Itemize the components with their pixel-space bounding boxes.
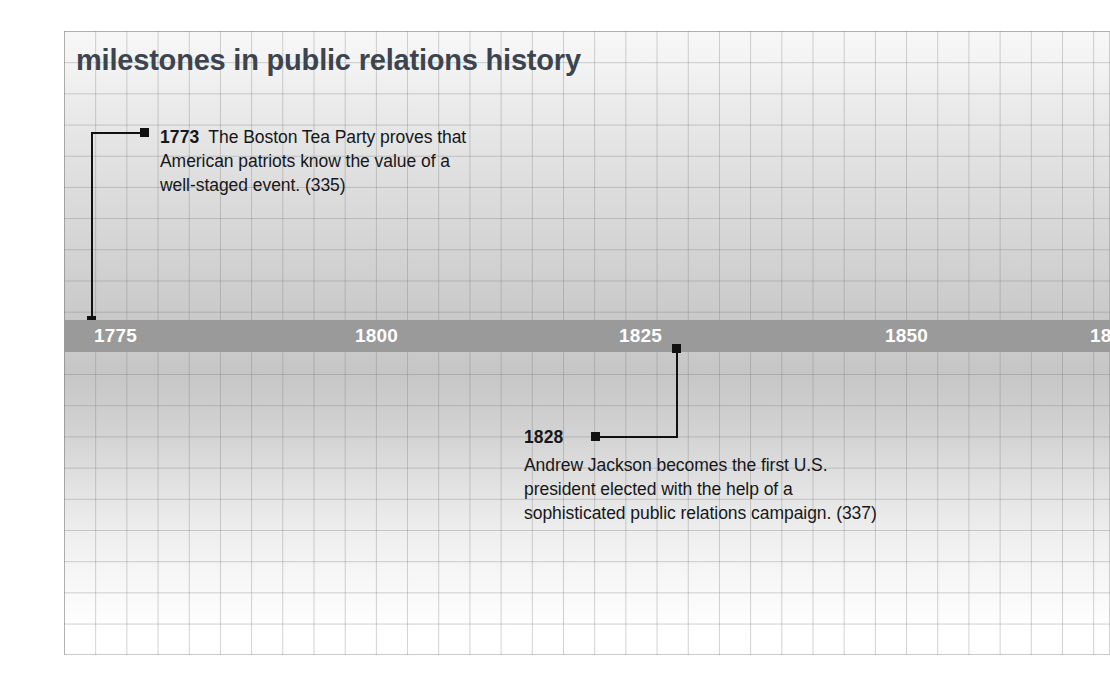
axis-tick-1775: 1775 <box>94 320 137 352</box>
leader-line-1828-vertical <box>676 348 678 437</box>
callout-1773-line-2: American patriots know the value of a <box>160 151 450 171</box>
axis-tick-1800: 1800 <box>355 320 398 352</box>
axis-tick-1825: 1825 <box>619 320 662 352</box>
leader-line-1773-horizontal <box>91 132 143 134</box>
callout-1828-line-2: president elected with the help of a <box>524 479 793 499</box>
callout-1828-line-1: Andrew Jackson becomes the first U.S. <box>524 455 828 475</box>
callout-1773-line-1: The Boston Tea Party proves that <box>208 127 466 147</box>
callout-1828: 1828 Andrew Jackson becomes the first U.… <box>524 425 994 525</box>
callout-1828-year: 1828 <box>524 425 994 449</box>
page-title: milestones in public relations history <box>76 44 581 77</box>
timeline-bar: 1775 1800 1825 1850 18 <box>64 320 1110 352</box>
callout-1828-line-3: sophisticated public relations campaign.… <box>524 503 877 523</box>
axis-tick-1875-clipped: 18 <box>1090 320 1110 352</box>
event-marker-1773 <box>140 128 149 137</box>
callout-1773: 1773The Boston Tea Party proves that Ame… <box>160 125 540 197</box>
leader-line-1773-vertical <box>91 132 93 322</box>
callout-1773-year: 1773 <box>160 127 199 147</box>
timeline-figure: milestones in public relations history 1… <box>0 0 1110 687</box>
callout-1773-line-3: well-staged event. (335) <box>160 175 346 195</box>
axis-tick-1850: 1850 <box>885 320 928 352</box>
